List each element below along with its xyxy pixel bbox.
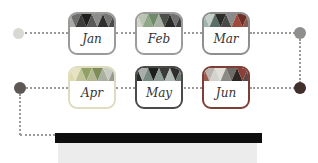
dotted-connector-row2-start xyxy=(26,87,68,89)
timeline-node-dot-row2-start xyxy=(14,82,26,94)
timeline-node-dot-row1-end xyxy=(294,27,306,39)
month-card-mar: Mar xyxy=(202,12,250,55)
calendar-header-mosaic xyxy=(204,14,248,27)
calendar-header-mosaic xyxy=(137,14,181,27)
dotted-connector-row2-end xyxy=(250,87,295,89)
month-label: Mar xyxy=(204,27,248,51)
dotted-connector-apr-may xyxy=(116,87,135,89)
timeline-node-dot-row1-start xyxy=(13,28,24,39)
month-card-feb: Feb xyxy=(135,12,183,55)
timeline-node-dot-row2-end xyxy=(294,82,306,94)
timeline-infographic: Jan Feb Mar Apr May Jun xyxy=(0,0,318,163)
dotted-connector-left-vertical xyxy=(19,94,21,135)
month-label: Apr xyxy=(70,81,114,105)
dotted-connector-row1-end xyxy=(250,32,295,34)
month-label: May xyxy=(137,81,181,105)
dotted-connector-feb-mar xyxy=(184,32,202,34)
divider-bar xyxy=(55,133,262,143)
calendar-header-mosaic xyxy=(204,68,248,81)
dotted-connector-right-vertical xyxy=(299,39,301,83)
calendar-header-mosaic xyxy=(137,68,181,81)
month-label: Jun xyxy=(204,81,248,105)
month-label: Jan xyxy=(70,27,114,51)
dotted-connector-may-jun xyxy=(184,87,202,89)
month-card-jun: Jun xyxy=(202,66,250,109)
dotted-connector-jan-feb xyxy=(116,32,135,34)
calendar-header-mosaic xyxy=(70,14,114,27)
month-card-apr: Apr xyxy=(68,66,116,109)
month-card-jan: Jan xyxy=(68,12,116,55)
month-card-may: May xyxy=(135,66,183,109)
dotted-connector-row1-start xyxy=(25,32,68,34)
calendar-header-mosaic xyxy=(70,68,114,81)
month-label: Feb xyxy=(137,27,181,51)
cropped-bottom-panel xyxy=(58,143,257,163)
dotted-connector-bottom-horizontal xyxy=(20,134,55,136)
